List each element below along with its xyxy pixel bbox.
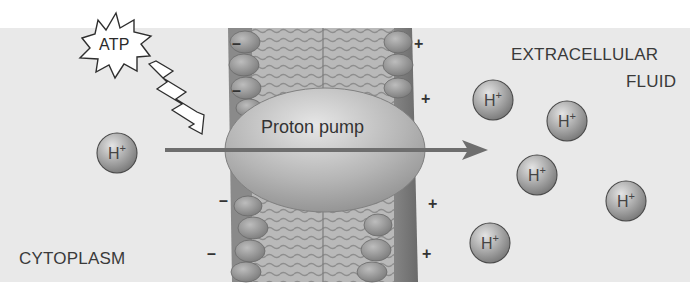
- minus-sign: –: [207, 246, 216, 262]
- h-ion-label: H+: [553, 112, 581, 130]
- extracellular-label-line2: FLUID: [626, 72, 676, 92]
- h-ion-label: H+: [479, 91, 507, 109]
- plus-sign: +: [414, 36, 423, 52]
- h-ion-label: H+: [523, 166, 551, 184]
- h-ion-label: H+: [612, 192, 640, 210]
- minus-sign: –: [232, 36, 241, 52]
- cytoplasm-label: CYTOPLASM: [19, 249, 125, 269]
- minus-sign: –: [232, 83, 241, 99]
- h-ion-label: H+: [476, 234, 504, 252]
- extracellular-label-line1: EXTRACELLULAR: [511, 45, 658, 65]
- plus-sign: +: [422, 246, 431, 262]
- atp-label: ATP: [99, 36, 130, 54]
- plus-sign: +: [428, 196, 437, 212]
- h-ion-label: H+: [103, 144, 131, 162]
- proton-pump-diagram: ATP EXTRACELLULAR FLUID CYTOPLASM Proton…: [0, 0, 699, 295]
- minus-sign: –: [219, 193, 228, 209]
- plus-sign: +: [421, 91, 430, 107]
- proton-pump-label: Proton pump: [261, 117, 364, 138]
